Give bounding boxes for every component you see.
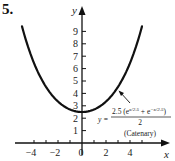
x-tick-label: 4 bbox=[128, 147, 133, 158]
svg-text:y =: y = bbox=[97, 115, 108, 124]
catenary-label: (Catenary) bbox=[124, 129, 157, 138]
catenary-chart: −4 −2 0 2 4 x 1 2 3 4 5 6 7 8 9 y bbox=[0, 0, 175, 161]
equation-denominator: 2 bbox=[138, 118, 142, 127]
equation-label: y = 2.5 (ex/2.5 + e−x/2.5) 2 (Catenary) bbox=[97, 107, 171, 138]
y-axis-arrow-icon bbox=[79, 6, 86, 15]
y-tick-label: 8 bbox=[73, 38, 78, 49]
y-tick-label: 1 bbox=[73, 125, 78, 136]
y-axis: 1 2 3 4 5 6 7 8 9 y bbox=[71, 4, 86, 155]
y-tick-label: 7 bbox=[73, 51, 78, 62]
x-axis: −4 −2 0 2 4 x bbox=[15, 140, 170, 161]
y-tick-label: 6 bbox=[73, 63, 78, 74]
x-tick-label: −4 bbox=[26, 147, 37, 158]
x-axis-label: x bbox=[163, 148, 169, 160]
y-tick-label: 4 bbox=[73, 88, 78, 99]
annotation-arrow bbox=[119, 91, 131, 104]
y-tick-label: 9 bbox=[73, 26, 78, 37]
y-tick-label: 3 bbox=[73, 100, 78, 111]
equation-numerator: 2.5 (ex/2.5 + e−x/2.5) bbox=[112, 107, 166, 116]
y-tick-label: 5 bbox=[73, 75, 78, 86]
y-axis-label: y bbox=[71, 4, 77, 16]
x-tick-label: 2 bbox=[104, 147, 109, 158]
x-tick-label: −2 bbox=[50, 147, 61, 158]
x-axis-arrow-icon bbox=[161, 140, 170, 147]
x-tick-label: 0 bbox=[79, 147, 84, 158]
y-tick-label: 2 bbox=[73, 113, 78, 124]
